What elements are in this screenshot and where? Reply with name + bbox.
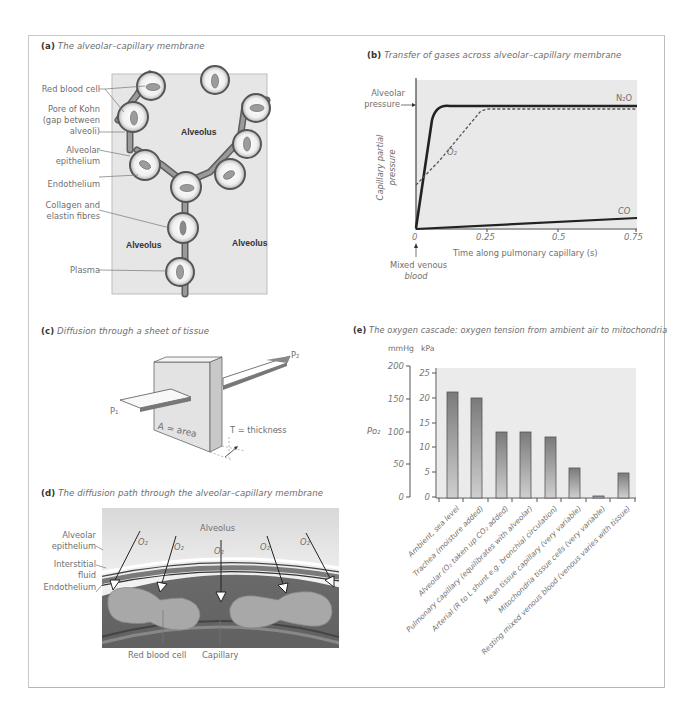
mmhg-tick-50: 50 — [380, 459, 404, 469]
mmhg-tick-150: 150 — [380, 394, 404, 404]
mmhg-tick-0: 0 — [380, 492, 404, 502]
kpa-tick-5: 5 — [412, 467, 430, 477]
kpa-tick-10: 10 — [412, 442, 430, 452]
kpa-tick-25: 25 — [412, 368, 430, 378]
mmhg-tick-100: 100 — [380, 427, 404, 437]
kpa-tick-20: 20 — [412, 393, 430, 403]
kpa-tick-15: 15 — [412, 418, 430, 428]
mmhg-tick-200: 200 — [380, 361, 404, 371]
kpa-tick-0: 0 — [412, 492, 430, 502]
oxygen-cascade-chart — [0, 0, 691, 719]
